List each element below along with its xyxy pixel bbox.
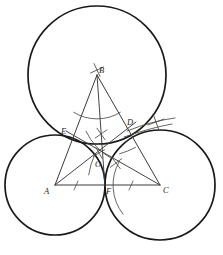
construction-arcs-group xyxy=(74,112,175,214)
point-label-O: O xyxy=(95,160,101,169)
tangent-circles-group xyxy=(5,6,215,240)
bisector-from-C xyxy=(66,131,160,185)
figure-canvas xyxy=(0,0,223,255)
geometry-figure: A B C D E F O xyxy=(0,0,223,255)
point-label-B: B xyxy=(99,66,104,75)
cross-marks-group xyxy=(74,64,164,190)
point-label-C: C xyxy=(163,186,169,195)
point-label-F: F xyxy=(106,187,111,196)
bisector-from-B xyxy=(97,75,105,187)
point-label-E: E xyxy=(61,127,66,136)
arc-cross-upper xyxy=(120,147,136,153)
arc-at-C xyxy=(113,162,123,215)
point-label-D: D xyxy=(127,118,133,127)
point-label-A: A xyxy=(44,187,49,196)
